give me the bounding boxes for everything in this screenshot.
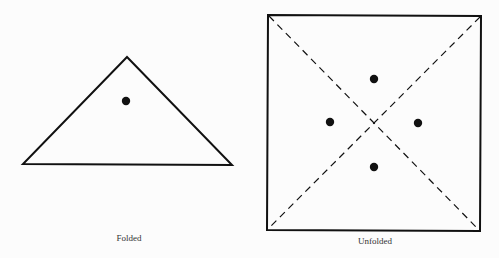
unfolded-dot-left (326, 118, 334, 126)
unfolded-dot-bottom (370, 163, 378, 171)
unfolded-square (267, 15, 481, 231)
fold-line-diagonal-2 (268, 17, 480, 229)
diagram-canvas (0, 0, 499, 258)
folded-triangle (23, 57, 232, 165)
unfolded-dot-top (370, 75, 378, 83)
folded-dot (122, 97, 130, 105)
unfolded-caption: Unfolded (358, 236, 392, 246)
unfolded-dot-right (414, 119, 422, 127)
folded-caption: Folded (116, 233, 141, 243)
